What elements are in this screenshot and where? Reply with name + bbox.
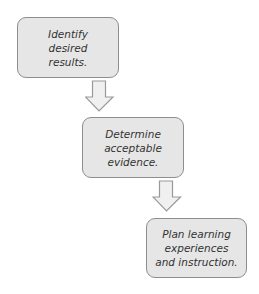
step-label: Identify desired results. bbox=[48, 27, 88, 69]
down-arrow-icon bbox=[152, 180, 182, 213]
step-label: Plan learning experiences and instructio… bbox=[155, 227, 237, 269]
down-arrow-icon bbox=[85, 80, 115, 113]
step-label: Determine acceptable evidence. bbox=[104, 127, 162, 169]
step-box-plan-learning: Plan learning experiences and instructio… bbox=[146, 218, 247, 278]
step-box-determine-evidence: Determine acceptable evidence. bbox=[82, 117, 184, 178]
step-box-identify-results: Identify desired results. bbox=[17, 17, 119, 78]
